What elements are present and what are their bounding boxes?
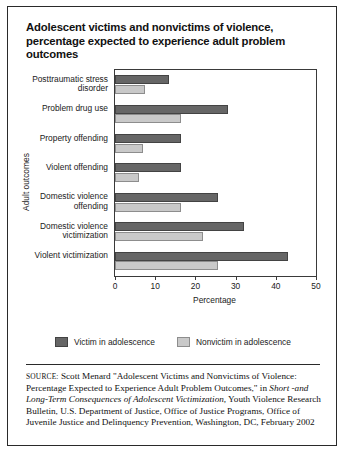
chart-legend: Victim in adolescence Nonvictim in adole… [8,337,338,347]
bar-group: Violent offending [115,158,316,187]
bar-group: Violent victimization [115,247,316,276]
x-axis-tick [155,276,156,280]
bar-nonvictim [115,144,143,153]
x-axis-tick [195,276,196,280]
y-axis-title: Adult outcomes [21,138,31,226]
source-note: SOURCE: Scott Menard "Adolescent Victims… [26,371,322,429]
divider [26,364,320,365]
bar-victim [115,105,228,114]
bar-nonvictim [115,114,181,123]
category-label: Violent victimization [8,251,108,261]
x-axis-tick-label: 40 [271,281,280,291]
bar-nonvictim [115,232,203,241]
x-axis-tick-label: 50 [311,281,320,291]
category-label: Violent offending [8,163,108,173]
category-label: Property offending [8,134,108,144]
category-label: Posttraumatic stress disorder [8,75,108,94]
x-axis-tick [276,276,277,280]
legend-item-victim: Victim in adolescence [55,337,155,347]
bar-chart: Adult outcomes Posttraumatic stress diso… [8,59,338,317]
category-label: Domestic violence offending [8,192,108,211]
x-axis-tick-label: 30 [231,281,240,291]
bar-nonvictim [115,173,139,182]
category-label: Problem drug use [8,104,108,114]
source-text-1: Scott Menard "Adolescent Victims and Non… [26,371,297,393]
bar-group: Domestic violence offending [115,188,316,217]
bar-victim [115,222,244,231]
x-axis-tick [236,276,237,280]
x-axis-tick [316,276,317,280]
source-label: SOURCE: [26,372,59,381]
bar-group: Domestic violence victimization [115,217,316,246]
bar-nonvictim [115,85,145,94]
x-axis-tick-label: 20 [191,281,200,291]
legend-label-victim: Victim in adolescence [74,337,155,347]
bar-victim [115,163,181,172]
plot-area: Posttraumatic stress disorderProblem dru… [114,69,317,277]
x-axis-title: Percentage [114,295,315,305]
legend-swatch-victim [55,337,68,347]
category-label: Domestic violence victimization [8,222,108,241]
bar-nonvictim [115,261,218,270]
legend-item-nonvictim: Nonvictim in adolescence [177,337,291,347]
bar-victim [115,193,218,202]
bar-victim [115,252,288,261]
bar-victim [115,75,169,84]
figure-card: Adolescent victims and nonvictims of vio… [7,6,337,446]
x-axis-tick [115,276,116,280]
bar-nonvictim [115,203,181,212]
bar-group: Posttraumatic stress disorder [115,70,316,99]
legend-label-nonvictim: Nonvictim in adolescence [196,337,291,347]
bar-group: Problem drug use [115,99,316,128]
x-axis-tick-label: 10 [151,281,160,291]
bar-victim [115,134,181,143]
bar-group: Property offending [115,129,316,158]
x-axis-tick-label: 0 [113,281,118,291]
legend-swatch-nonvictim [177,337,190,347]
page-title: Adolescent victims and nonvictims of vio… [26,21,322,62]
